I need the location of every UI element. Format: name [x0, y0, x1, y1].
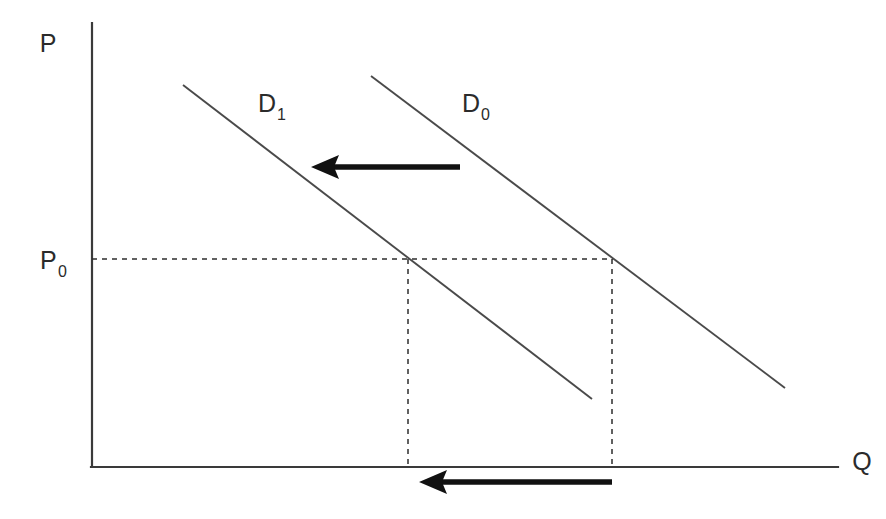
- quantity-decrease-arrow: [419, 470, 612, 494]
- demand-shift-arrow: [311, 155, 460, 179]
- curve-label-d1-subscript: 1: [277, 106, 286, 123]
- demand-curve-d1: [183, 85, 592, 399]
- x-axis-label: Q: [852, 447, 871, 475]
- curve-label-d0-subscript: 0: [481, 106, 490, 123]
- price-level-label-subscript: 0: [58, 263, 67, 280]
- figure-canvas: P Q P 0 D 1 D 0: [0, 0, 886, 519]
- curve-label-d0: D: [462, 89, 480, 117]
- demand-shift-figure: P Q P 0 D 1 D 0: [0, 0, 886, 519]
- price-level-label: P: [40, 246, 57, 274]
- y-axis-label: P: [40, 29, 57, 57]
- demand-curve-d0: [371, 76, 785, 388]
- curve-label-d1: D: [258, 89, 276, 117]
